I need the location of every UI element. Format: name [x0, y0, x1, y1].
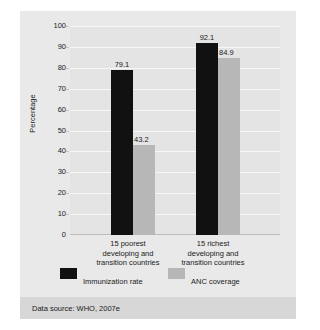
- bar-anc-poorest[interactable]: [133, 145, 155, 235]
- y-tick-label: 80: [40, 64, 66, 72]
- legend-swatch-black-icon: [60, 268, 77, 279]
- x-axis-line: [70, 234, 280, 235]
- y-tick-mark: [66, 26, 69, 27]
- gridline: [70, 89, 280, 90]
- y-tick-label: 60: [40, 106, 66, 114]
- y-tick-mark: [66, 47, 69, 48]
- y-tick-mark: [66, 193, 69, 194]
- gridline: [70, 110, 280, 111]
- bar-value-anc-richest: 84.9: [218, 49, 249, 57]
- source-note: Data source: WHO, 2007e: [32, 304, 120, 313]
- y-tick-label: 0: [40, 231, 66, 239]
- x-category-line: developing and: [158, 249, 268, 259]
- y-axis-ticks: 100 90 80 70 60 50 40 30 20 10 0: [36, 26, 66, 235]
- source-footer: Data source: WHO, 2007e: [20, 297, 296, 319]
- y-tick-label: 10: [40, 210, 66, 218]
- figure-caption: transition countries: [20, 0, 295, 1]
- y-tick-mark: [66, 68, 69, 69]
- gridline: [70, 68, 280, 69]
- gridline: [70, 193, 280, 194]
- x-category-label-richest: 15 richest developing and transition cou…: [158, 239, 268, 268]
- bar-value-anc-poorest: 43.2: [133, 136, 164, 144]
- bar-group-poorest: 79.1 43.2: [111, 26, 155, 235]
- y-tick-mark: [66, 172, 69, 173]
- gridline: [70, 172, 280, 173]
- x-category-line: 15 richest: [158, 239, 268, 249]
- gridline: [70, 151, 280, 152]
- y-tick-label: 100: [40, 22, 66, 30]
- bar-immunization-richest[interactable]: [196, 43, 218, 236]
- y-tick-mark: [66, 110, 69, 111]
- bar-immunization-poorest[interactable]: [111, 70, 133, 235]
- figure-panel: Percentage 100 90 80 70 60 50 40 30 20 1…: [20, 11, 296, 319]
- gridline: [70, 47, 280, 48]
- bar-anc-richest[interactable]: [218, 58, 240, 235]
- y-tick-label: 40: [40, 147, 66, 155]
- gridline: [70, 131, 280, 132]
- chart-legend: Immunization rate (DPT3) ANC coverage at…: [20, 267, 296, 295]
- gridline: [70, 26, 280, 27]
- bar-value-immunization-poorest: 79.1: [111, 61, 133, 69]
- legend-swatch-gray-icon: [168, 268, 185, 279]
- plot-area: 79.1 43.2 92.1 84.9: [70, 26, 280, 235]
- y-tick-label: 70: [40, 85, 66, 93]
- bar-group-richest: 92.1 84.9: [196, 26, 240, 235]
- bar-value-immunization-richest: 92.1: [196, 34, 218, 42]
- y-tick-label: 50: [40, 127, 66, 135]
- legend-label-line: Immunization rate: [83, 277, 143, 286]
- legend-label-line: ANC coverage: [191, 277, 240, 286]
- gridline: [70, 214, 280, 215]
- y-tick-mark: [66, 89, 69, 90]
- y-tick-mark: [66, 151, 69, 152]
- y-tick-label: 30: [40, 168, 66, 176]
- y-tick-mark: [66, 131, 69, 132]
- y-tick-label: 20: [40, 189, 66, 197]
- y-tick-mark: [66, 214, 69, 215]
- y-tick-label: 90: [40, 43, 66, 51]
- plot-region: Percentage 100 90 80 70 60 50 40 30 20 1…: [20, 11, 296, 263]
